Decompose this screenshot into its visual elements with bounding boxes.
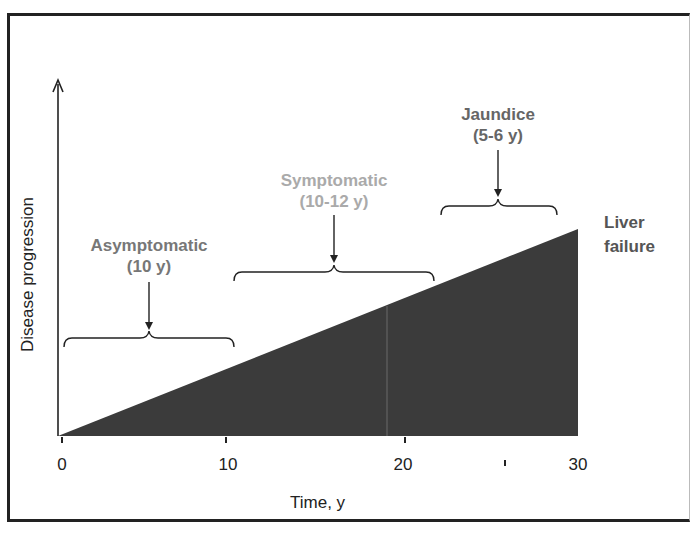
- x-tick-0: 0: [57, 455, 66, 475]
- x-tick-10: 10: [219, 455, 238, 475]
- x-ticks: [62, 437, 505, 466]
- jaundice-title: Jaundice: [448, 104, 548, 125]
- liver-failure-line2: failure: [604, 235, 674, 259]
- asymptomatic-duration: (10 y): [74, 256, 224, 277]
- x-tick-20: 20: [394, 455, 413, 475]
- liver-failure-line1: Liver: [604, 211, 674, 235]
- symptomatic-duration: (10-12 y): [264, 191, 404, 212]
- liver-failure-label: Liver failure: [604, 211, 674, 259]
- asymptomatic-bracket: [64, 282, 234, 347]
- symptomatic-bracket: [234, 215, 434, 281]
- jaundice-bracket: [441, 150, 557, 215]
- jaundice-duration: (5-6 y): [448, 125, 548, 146]
- y-axis-title: Disease progression: [18, 197, 38, 352]
- symptomatic-label: Symptomatic (10-12 y): [264, 170, 404, 212]
- jaundice-label: Jaundice (5-6 y): [448, 104, 548, 146]
- asymptomatic-title: Asymptomatic: [74, 235, 224, 256]
- x-tick-30: 30: [569, 455, 588, 475]
- x-axis-title: Time, y: [290, 493, 345, 513]
- asymptomatic-label: Asymptomatic (10 y): [74, 235, 224, 277]
- symptomatic-title: Symptomatic: [264, 170, 404, 191]
